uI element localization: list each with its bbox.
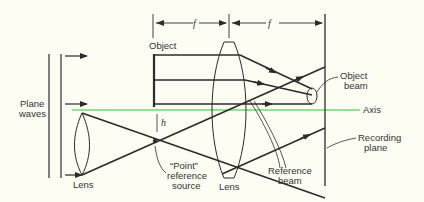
recording-plane-label-2: plane <box>364 142 387 153</box>
left-lens-label: Lens <box>73 179 94 190</box>
object-label: Object <box>149 40 177 51</box>
object-beam-label-2: beam <box>344 80 368 91</box>
focal-length-label-2: f <box>268 18 272 29</box>
center-lens-label: Lens <box>219 181 240 192</box>
height-label: h <box>161 117 166 128</box>
plane-waves-label-2: waves <box>18 108 46 119</box>
point-reference-label-3: source <box>172 180 201 191</box>
reference-beam-label-2: beam <box>278 175 302 186</box>
axis-label: Axis <box>363 104 381 115</box>
object-rays <box>154 55 312 104</box>
object-beam-focus <box>307 88 317 104</box>
plane-wavefronts <box>49 54 61 178</box>
lens-left <box>75 113 90 175</box>
focal-length-dimensions <box>153 14 322 38</box>
holography-setup-diagram: Object f f h Object beam Axis Plane wave… <box>0 0 424 202</box>
focal-length-label-1: f <box>193 18 197 29</box>
point-reference-source <box>153 139 157 143</box>
